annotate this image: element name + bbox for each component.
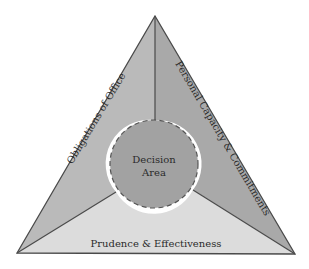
label-area: Area (141, 167, 166, 178)
label-decision: Decision (132, 154, 176, 165)
decision-triangle-diagram: Obligations of Office Personal Capacity … (0, 0, 309, 269)
label-prudence-effectiveness: Prudence & Effectiveness (91, 238, 222, 249)
